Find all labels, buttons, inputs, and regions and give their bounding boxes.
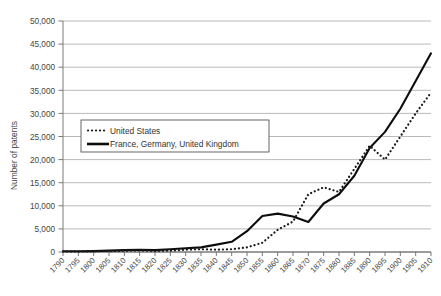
x-tick-label: 1855 bbox=[247, 256, 266, 275]
x-axis-ticks bbox=[63, 252, 431, 256]
x-tick-label: 1895 bbox=[370, 256, 389, 275]
x-tick-label: 1825 bbox=[155, 256, 174, 275]
x-axis-tick-labels: 1790 1795 1800 1805 1810 1815 1820 1825 … bbox=[48, 256, 435, 275]
x-tick-label: 1865 bbox=[278, 256, 297, 275]
x-tick-label: 1860 bbox=[262, 256, 281, 275]
x-tick-label: 1850 bbox=[232, 256, 251, 275]
x-tick-label: 1800 bbox=[78, 256, 97, 275]
y-axis-ticks bbox=[59, 21, 64, 252]
y-tick-label: 20,000 bbox=[30, 156, 55, 165]
y-tick-label: 5,000 bbox=[35, 225, 56, 234]
x-tick-label: 1875 bbox=[308, 256, 327, 275]
y-tick-label: 45,000 bbox=[30, 40, 55, 49]
patents-line-chart: 50,000 45,000 40,000 35,000 30,000 25,00… bbox=[0, 0, 441, 296]
x-tick-label: 1815 bbox=[124, 256, 143, 275]
y-tick-label: 15,000 bbox=[30, 179, 55, 188]
y-tick-label: 50,000 bbox=[30, 17, 55, 26]
legend-item-france-germany-uk[interactable]: France, Germany, United Kingdom bbox=[87, 139, 239, 149]
x-tick-label: 1810 bbox=[109, 256, 128, 275]
y-tick-label: 30,000 bbox=[30, 110, 55, 119]
chart-legend: United States France, Germany, United Ki… bbox=[81, 120, 269, 152]
x-tick-label: 1790 bbox=[48, 256, 67, 275]
x-tick-label: 1880 bbox=[324, 256, 343, 275]
y-axis-title: Number of patents bbox=[9, 121, 19, 190]
x-tick-label: 1805 bbox=[94, 256, 113, 275]
x-tick-label: 1820 bbox=[140, 256, 159, 275]
x-tick-label: 1870 bbox=[293, 256, 312, 275]
x-tick-label: 1885 bbox=[339, 256, 358, 275]
figure-container: 50,000 45,000 40,000 35,000 30,000 25,00… bbox=[0, 0, 441, 296]
y-tick-label: 10,000 bbox=[30, 202, 55, 211]
y-tick-label: 0 bbox=[50, 248, 55, 257]
x-tick-label: 1830 bbox=[170, 256, 189, 275]
x-tick-label: 1840 bbox=[201, 256, 220, 275]
x-tick-label: 1845 bbox=[216, 256, 235, 275]
y-tick-label: 35,000 bbox=[30, 87, 55, 96]
x-tick-label: 1905 bbox=[400, 256, 419, 275]
x-tick-label: 1835 bbox=[186, 256, 205, 275]
x-tick-label: 1795 bbox=[63, 256, 82, 275]
x-tick-label: 1900 bbox=[385, 256, 404, 275]
x-tick-label: 1890 bbox=[354, 256, 373, 275]
x-tick-label: 1910 bbox=[416, 256, 435, 275]
legend-item-label: United States bbox=[110, 126, 160, 136]
y-tick-label: 25,000 bbox=[30, 133, 55, 142]
legend-item-label: France, Germany, United Kingdom bbox=[110, 139, 239, 149]
y-tick-label: 40,000 bbox=[30, 63, 55, 72]
y-axis-tick-labels: 50,000 45,000 40,000 35,000 30,000 25,00… bbox=[30, 17, 55, 257]
